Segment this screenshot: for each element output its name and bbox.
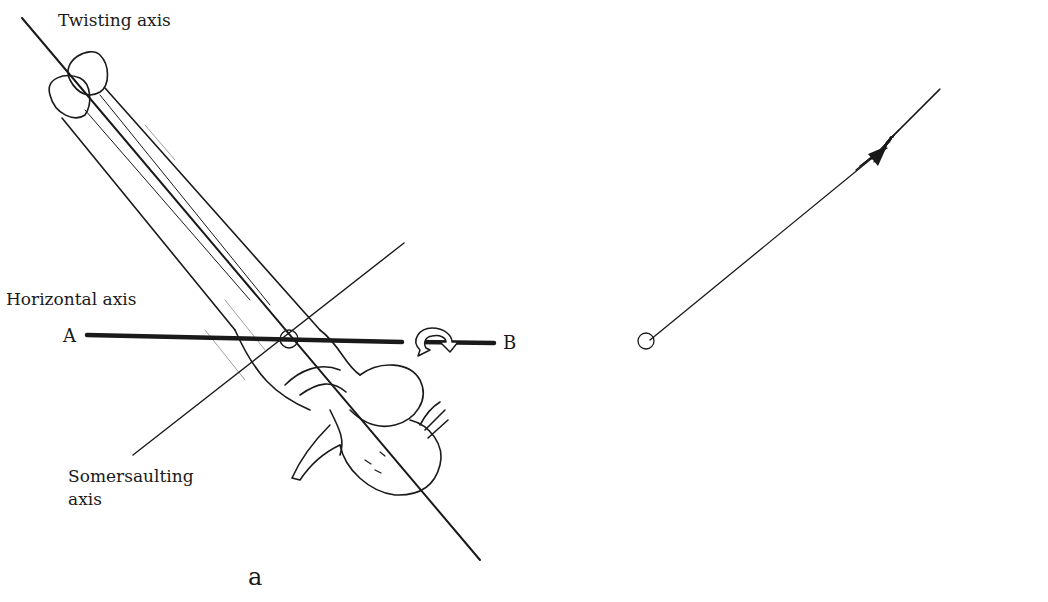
point-a-label: A: [63, 325, 76, 346]
panel-a-caption: a: [248, 563, 262, 591]
point-b-label: B: [503, 332, 516, 353]
panel-a-gymnast-axes: Twisting axis Horizontal axis A B Somers…: [0, 0, 560, 602]
somersaulting-momentum-vector: [650, 150, 882, 340]
somersaulting-axis-label-line2: axis: [68, 489, 102, 510]
twisting-axis-label: Twisting axis: [58, 10, 171, 31]
gymnast-figure: [49, 52, 448, 495]
origin-circle: [638, 333, 654, 349]
panel-b-momentum-vectors: [560, 0, 1048, 602]
horizontal-axis-line: [87, 335, 402, 342]
vector-diagram: [560, 0, 1048, 602]
horizontal-axis-label: Horizontal axis: [6, 289, 136, 310]
somersaulting-axis-label-line1: Somersaulting: [68, 466, 194, 487]
